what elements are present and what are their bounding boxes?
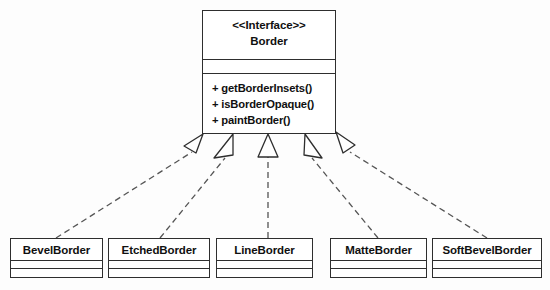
interface-operations-compartment: + getBorderInsets() + isBorderOpaque() +… <box>203 73 335 133</box>
class-matteborder[interactable]: MatteBorder <box>330 238 427 278</box>
realization-arrow-matteborder <box>304 134 322 158</box>
class-bevelborder[interactable]: BevelBorder <box>10 238 103 278</box>
operations-compartment-softbevelborder <box>433 268 541 277</box>
attributes-compartment-lineborder <box>217 260 312 268</box>
operations-compartment-bevelborder <box>11 268 102 277</box>
realization-arrow-softbevelborder <box>336 132 355 153</box>
class-name-bevelborder: BevelBorder <box>11 239 102 260</box>
operation-get-border-insets: + getBorderInsets() <box>212 80 335 96</box>
uml-diagram-canvas: <<Interface>> Border + getBorderInsets()… <box>0 0 550 290</box>
realization-arrow-etchedborder <box>214 134 233 158</box>
operations-compartment-etchedborder <box>109 268 209 277</box>
interface-stereotype: <<Interface>> <box>203 18 335 33</box>
attributes-compartment-matteborder <box>331 260 426 268</box>
attributes-compartment-softbevelborder <box>433 260 541 268</box>
interface-attributes-compartment <box>203 59 335 73</box>
class-name-matteborder: MatteBorder <box>331 239 426 260</box>
realization-line-matteborder <box>312 158 378 238</box>
interface-class-border[interactable]: <<Interface>> Border + getBorderInsets()… <box>202 10 336 134</box>
attributes-compartment-etchedborder <box>109 260 209 268</box>
class-softbevelborder[interactable]: SoftBevelBorder <box>432 238 542 278</box>
realization-arrow-lineborder <box>258 134 278 157</box>
attributes-compartment-bevelborder <box>11 260 102 268</box>
realization-line-softbevelborder <box>350 152 487 238</box>
class-name-softbevelborder: SoftBevelBorder <box>433 239 541 260</box>
interface-name: Border <box>203 33 335 50</box>
class-etchedborder[interactable]: EtchedBorder <box>108 238 210 278</box>
realization-arrow-bevelborder <box>184 134 203 153</box>
operations-compartment-matteborder <box>331 268 426 277</box>
class-name-etchedborder: EtchedBorder <box>109 239 209 260</box>
realization-line-etchedborder <box>160 158 225 238</box>
operations-compartment-lineborder <box>217 268 312 277</box>
class-name-lineborder: LineBorder <box>217 239 312 260</box>
realization-line-bevelborder <box>56 152 192 238</box>
interface-header: <<Interface>> Border <box>203 11 335 59</box>
class-lineborder[interactable]: LineBorder <box>216 238 313 278</box>
operation-paint-border: + paintBorder() <box>212 112 335 128</box>
operation-is-border-opaque: + isBorderOpaque() <box>212 96 335 112</box>
